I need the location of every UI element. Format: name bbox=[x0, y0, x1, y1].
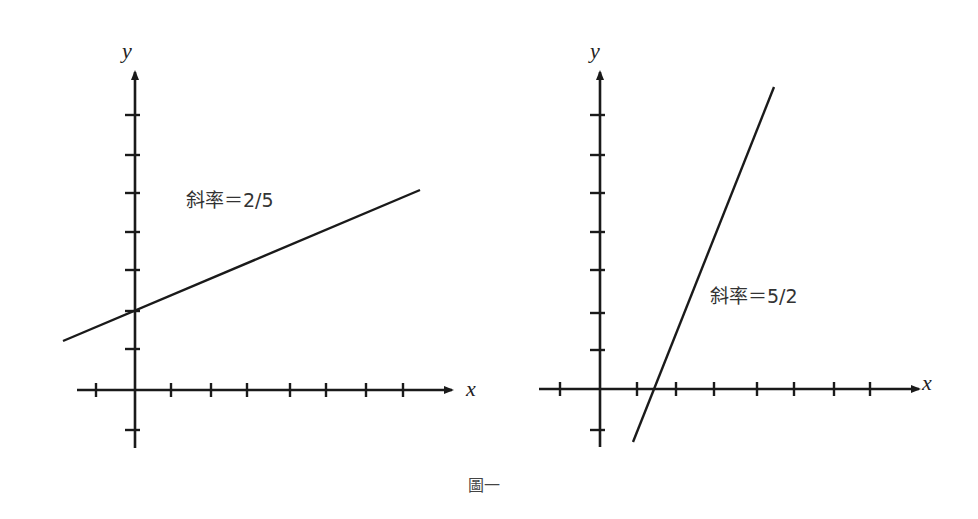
figure-canvas: x y 斜率＝2/5 x y 斜率＝5/2 bbox=[0, 0, 978, 519]
y-axis-label: y bbox=[588, 38, 600, 63]
right-graph: x y 斜率＝5/2 bbox=[539, 38, 932, 447]
slope-line bbox=[63, 190, 420, 341]
left-graph: x y 斜率＝2/5 bbox=[63, 38, 476, 448]
y-axis-label: y bbox=[120, 38, 132, 63]
figure-caption: 圖一 bbox=[468, 476, 500, 495]
y-axis-ticks bbox=[125, 115, 140, 430]
x-axis-label: x bbox=[465, 376, 476, 401]
x-axis-label: x bbox=[921, 370, 932, 395]
y-axis-ticks bbox=[590, 115, 605, 430]
slope-label: 斜率＝2/5 bbox=[186, 189, 274, 211]
slope-label: 斜率＝5/2 bbox=[710, 285, 798, 307]
